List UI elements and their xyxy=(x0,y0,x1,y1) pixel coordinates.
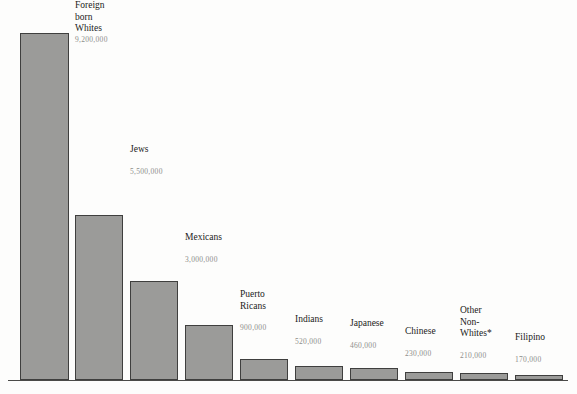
bar-group[interactable]: Puerto Ricans900,000 xyxy=(240,359,288,380)
bar-group[interactable]: Mexicans3,000,000 xyxy=(185,325,233,380)
bar-rect[interactable] xyxy=(130,281,178,380)
bar-label: Filipino xyxy=(515,332,545,344)
bar-rect[interactable] xyxy=(240,359,288,380)
bar-rect[interactable] xyxy=(405,372,453,380)
bar-group[interactable]: Filipino170,000 xyxy=(515,375,563,380)
bar-value-label: 5,500,000 xyxy=(130,167,163,176)
bar-label: Indians xyxy=(295,314,323,326)
bar-value-label: 460,000 xyxy=(350,341,376,350)
bar-rect[interactable] xyxy=(75,215,123,380)
x-axis-baseline xyxy=(8,380,568,381)
bar-rect[interactable] xyxy=(460,373,508,380)
bar-label: Chinese xyxy=(405,326,436,338)
bar-value-label: 3,000,000 xyxy=(185,255,218,264)
bar-rect[interactable] xyxy=(515,375,563,380)
bar-label: Jews xyxy=(130,144,148,156)
bar-label: Puerto Ricans xyxy=(240,289,266,312)
bar-rect[interactable] xyxy=(295,366,343,380)
bar-value-label: 210,000 xyxy=(460,351,486,360)
plot-area: Blacks18,800,000Foreign born Whites9,200… xyxy=(0,0,577,394)
bar-value-label: 9,200,000 xyxy=(75,35,108,44)
bar-group[interactable]: Foreign born Whites9,200,000 xyxy=(75,215,123,380)
bar-group[interactable]: Indians520,000 xyxy=(295,366,343,380)
bar-rect[interactable] xyxy=(350,368,398,380)
bar-value-label: 900,000 xyxy=(240,323,266,332)
bar-label: Japanese xyxy=(350,318,384,330)
bar-group[interactable]: Chinese230,000 xyxy=(405,372,453,380)
bar-group[interactable]: Other Non- Whites*210,000 xyxy=(460,373,508,380)
bar-group[interactable]: Japanese460,000 xyxy=(350,368,398,380)
bar-label: Other Non- Whites* xyxy=(460,305,492,340)
bar-rect[interactable] xyxy=(20,33,69,380)
bar-value-label: 520,000 xyxy=(295,337,321,346)
bar-chart: Blacks18,800,000Foreign born Whites9,200… xyxy=(0,0,577,394)
bar-rect[interactable] xyxy=(185,325,233,380)
bar-group[interactable]: Blacks18,800,000 xyxy=(20,33,69,380)
bar-label: Foreign born Whites xyxy=(75,0,105,35)
bar-value-label: 170,000 xyxy=(515,355,541,364)
bar-value-label: 230,000 xyxy=(405,349,431,358)
bar-label: Mexicans xyxy=(185,232,222,244)
bar-group[interactable]: Jews5,500,000 xyxy=(130,281,178,380)
